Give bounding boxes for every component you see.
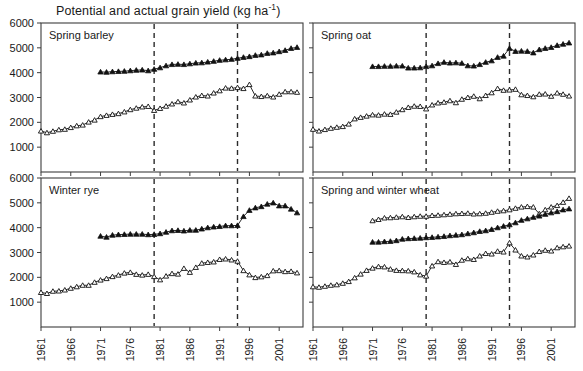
- panel-bottom-left: 1000200030004000500060001961196619711976…: [10, 172, 303, 361]
- panel-title: Spring and winter wheat: [321, 184, 439, 196]
- x-tick-label: 1961: [307, 338, 319, 362]
- marker-open-triangle: [157, 277, 162, 281]
- y-tick-label: 3000: [10, 247, 34, 259]
- marker-open-triangle: [418, 272, 423, 276]
- marker-open-triangle: [555, 203, 560, 207]
- marker-open-triangle: [447, 98, 452, 102]
- panel-top-left: 100020003000400050006000Spring barley: [10, 17, 303, 176]
- series-line-2: [313, 243, 569, 287]
- marker-open-triangle: [555, 91, 560, 95]
- marker-open-triangle: [483, 93, 488, 97]
- plot-canvas: 100020003000400050006000Spring barleySpr…: [0, 0, 583, 371]
- marker-open-triangle: [163, 274, 168, 278]
- marker-open-triangle: [181, 266, 186, 270]
- x-tick-label: 1986: [456, 338, 468, 362]
- panel-frame: [41, 178, 303, 327]
- marker-open-triangle: [495, 86, 500, 90]
- marker-open-triangle: [175, 99, 180, 103]
- x-tick-label: 1996: [243, 338, 255, 362]
- y-tick-label: 1000: [10, 296, 34, 308]
- panel-top-right: Spring oat: [309, 23, 575, 176]
- marker-open-triangle: [507, 240, 512, 244]
- marker-open-triangle: [477, 254, 482, 258]
- y-tick-label: 5000: [10, 197, 34, 209]
- y-tick-label: 2000: [10, 116, 34, 128]
- y-tick-label: 6000: [10, 17, 34, 29]
- x-tick-label: 1966: [337, 338, 349, 362]
- marker-open-triangle: [424, 106, 429, 110]
- marker-filled-triangle: [288, 206, 293, 211]
- x-tick-label: 1971: [95, 338, 107, 362]
- marker-filled-triangle: [98, 234, 103, 239]
- marker-filled-triangle: [271, 200, 276, 205]
- x-tick-label: 2001: [545, 338, 557, 362]
- marker-open-triangle: [277, 92, 282, 96]
- marker-filled-triangle: [247, 208, 252, 213]
- marker-open-triangle: [560, 200, 565, 204]
- marker-open-triangle: [38, 129, 43, 133]
- panel-frame: [313, 178, 575, 327]
- marker-open-triangle: [531, 253, 536, 257]
- marker-filled-triangle: [566, 40, 571, 45]
- marker-filled-triangle: [566, 206, 571, 211]
- marker-open-triangle: [241, 268, 246, 272]
- marker-open-triangle: [247, 82, 252, 86]
- panel-bottom-right: 196119661971197619811986199119962001Spri…: [307, 178, 575, 361]
- y-tick-label: 5000: [10, 42, 34, 54]
- marker-open-triangle: [38, 290, 43, 294]
- marker-filled-triangle: [429, 63, 434, 68]
- panel-title: Winter rye: [49, 184, 99, 196]
- marker-filled-triangle: [441, 60, 446, 65]
- marker-filled-triangle: [513, 220, 518, 225]
- x-tick-label: 1971: [367, 338, 379, 362]
- x-tick-label: 2001: [273, 338, 285, 362]
- marker-filled-triangle: [294, 45, 299, 50]
- marker-open-triangle: [217, 88, 222, 92]
- marker-open-triangle: [566, 196, 571, 200]
- x-tick-label: 1986: [184, 338, 196, 362]
- x-tick-label: 1996: [515, 338, 527, 362]
- series-line-1: [313, 89, 569, 131]
- panel-frame: [313, 23, 575, 172]
- x-tick-label: 1961: [35, 338, 47, 362]
- y-tick-label: 4000: [10, 222, 34, 234]
- y-tick-label: 1000: [10, 141, 34, 153]
- y-tick-label: 2000: [10, 271, 34, 283]
- marker-filled-triangle: [489, 58, 494, 63]
- marker-open-triangle: [346, 279, 351, 283]
- figure-container: Potential and actual grain yield (kg ha-…: [0, 0, 583, 371]
- marker-open-triangle: [358, 272, 363, 276]
- marker-open-triangle: [187, 98, 192, 102]
- panel-title: Spring oat: [321, 29, 371, 41]
- x-tick-label: 1991: [486, 338, 498, 362]
- x-tick-label: 1981: [154, 338, 166, 362]
- x-tick-label: 1991: [214, 338, 226, 362]
- marker-open-triangle: [92, 118, 97, 122]
- marker-filled-triangle: [507, 46, 512, 51]
- marker-open-triangle: [477, 96, 482, 100]
- panel-title: Spring barley: [49, 29, 114, 41]
- y-tick-label: 3000: [10, 92, 34, 104]
- series-line-1: [41, 85, 297, 133]
- marker-filled-triangle: [259, 204, 264, 209]
- x-tick-label: 1981: [426, 338, 438, 362]
- x-tick-label: 1976: [124, 338, 136, 362]
- x-tick-label: 1966: [65, 338, 77, 362]
- y-tick-label: 6000: [10, 172, 34, 184]
- x-tick-label: 1976: [396, 338, 408, 362]
- marker-filled-triangle: [294, 210, 299, 215]
- marker-open-triangle: [394, 110, 399, 114]
- marker-open-triangle: [471, 94, 476, 98]
- y-tick-label: 4000: [10, 67, 34, 79]
- marker-open-triangle: [310, 127, 315, 131]
- marker-open-triangle: [352, 275, 357, 279]
